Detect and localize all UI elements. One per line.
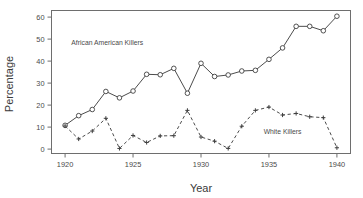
series-annotation-2: White Killers bbox=[264, 128, 302, 135]
data-point-marker bbox=[131, 89, 136, 94]
data-point-marker bbox=[76, 113, 81, 118]
chart-svg: 0102030405060 19201925193019351940 Afric… bbox=[0, 0, 363, 198]
y-tick-label: 0 bbox=[40, 145, 44, 154]
data-point-marker bbox=[199, 135, 203, 139]
x-tick-label: 1925 bbox=[125, 160, 141, 169]
x-tick-label: 1935 bbox=[261, 160, 277, 169]
data-point-marker bbox=[321, 116, 325, 120]
data-point-marker bbox=[117, 96, 122, 101]
data-point-marker bbox=[239, 69, 244, 74]
y-axis-ticks: 0102030405060 bbox=[36, 13, 51, 154]
data-point-marker bbox=[335, 146, 339, 150]
data-point-marker bbox=[267, 105, 271, 109]
data-point-marker bbox=[131, 133, 135, 137]
data-point-marker bbox=[158, 72, 163, 77]
chart-figure: 0102030405060 19201925193019351940 Afric… bbox=[0, 0, 363, 198]
data-point-marker bbox=[172, 66, 177, 71]
data-point-marker bbox=[172, 134, 176, 138]
data-point-marker bbox=[212, 139, 216, 143]
plot-frame bbox=[52, 11, 351, 154]
data-point-marker bbox=[158, 134, 162, 138]
x-tick-label: 1920 bbox=[57, 160, 73, 169]
y-tick-label: 40 bbox=[36, 57, 44, 66]
data-point-marker bbox=[294, 111, 298, 115]
y-tick-label: 30 bbox=[36, 79, 44, 88]
y-tick-label: 50 bbox=[36, 35, 44, 44]
data-point-marker bbox=[335, 14, 340, 19]
data-point-marker bbox=[185, 91, 190, 96]
data-point-marker bbox=[144, 72, 149, 77]
data-point-marker bbox=[294, 24, 299, 29]
y-tick-label: 20 bbox=[36, 101, 44, 110]
data-point-marker bbox=[321, 28, 326, 33]
data-point-marker bbox=[90, 107, 95, 112]
series-annotation-1: African American Killers bbox=[71, 39, 143, 46]
series-line-1 bbox=[65, 16, 337, 125]
data-point-marker bbox=[104, 116, 108, 120]
data-point-marker bbox=[185, 108, 189, 112]
data-point-marker bbox=[308, 115, 312, 119]
y-axis-title: Percentage bbox=[3, 56, 15, 112]
data-point-marker bbox=[280, 113, 284, 117]
data-point-marker bbox=[212, 74, 217, 79]
x-axis-title: Year bbox=[190, 182, 213, 194]
y-tick-label: 10 bbox=[36, 123, 44, 132]
data-point-marker bbox=[267, 57, 272, 62]
data-point-marker bbox=[307, 24, 312, 29]
data-point-marker bbox=[77, 137, 81, 141]
y-tick-label: 60 bbox=[36, 13, 44, 22]
x-tick-label: 1930 bbox=[193, 160, 209, 169]
data-point-marker bbox=[104, 89, 109, 94]
data-point-marker bbox=[199, 61, 204, 66]
data-point-marker bbox=[253, 108, 257, 112]
data-point-marker bbox=[280, 46, 285, 51]
x-tick-label: 1940 bbox=[329, 160, 345, 169]
x-axis-ticks: 19201925193019351940 bbox=[57, 154, 345, 170]
data-point-marker bbox=[145, 140, 149, 144]
data-point-marker bbox=[253, 68, 258, 73]
data-point-marker bbox=[226, 73, 231, 78]
